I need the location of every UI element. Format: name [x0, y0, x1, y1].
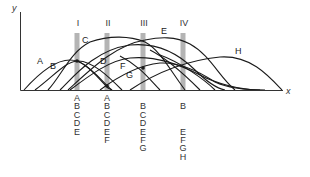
species-item: F: [104, 136, 111, 144]
curve-right-descend: [160, 55, 215, 90]
species-item: B: [179, 102, 186, 110]
intersection-II: [105, 84, 109, 88]
intersection-III: [141, 66, 145, 70]
species-list-II: A B C D E F: [104, 94, 111, 144]
curve-label-B: B: [50, 62, 56, 71]
curve-label-H: H: [235, 47, 242, 56]
curve-label-C: C: [82, 36, 89, 45]
species-list-I: A B C D E: [74, 94, 81, 136]
curve-H: [130, 57, 282, 90]
curve-label-A: A: [37, 57, 43, 66]
section-label-II: II: [105, 19, 110, 28]
species-item: G: [139, 144, 146, 152]
intersection-I: [75, 59, 79, 63]
x-axis-label: x: [286, 86, 291, 96]
section-label-III: III: [140, 19, 148, 28]
species-item: E: [74, 128, 81, 136]
species-item: [179, 111, 186, 119]
species-item: H: [179, 153, 186, 161]
species-curves: [24, 37, 282, 90]
y-axis-label: y: [12, 3, 17, 13]
curve-label-E: E: [161, 27, 167, 36]
curve-label-F: F: [120, 62, 126, 71]
species-distribution-diagram: [0, 0, 310, 177]
section-label-IV: IV: [180, 19, 189, 28]
section-label-I: I: [77, 19, 80, 28]
curve-label-G: G: [126, 71, 133, 80]
curve-label-D: D: [100, 57, 107, 66]
species-list-III: B C D E F G: [139, 94, 146, 153]
species-list-IV: B E F G H: [179, 94, 186, 161]
